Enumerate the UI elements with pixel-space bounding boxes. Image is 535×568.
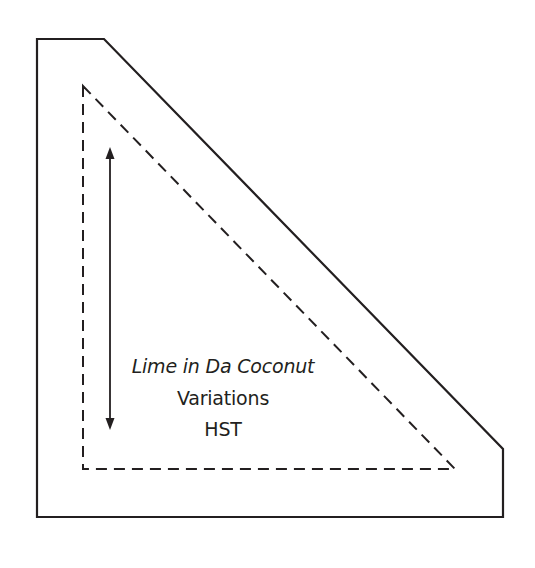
diagram-canvas: Lime in Da Coconut Variations HST [0,0,535,568]
pattern-name-label: Lime in Da Coconut [123,355,323,377]
template-drawing [0,0,535,568]
inner-sew-line [83,86,455,469]
subtitle-label: Variations [123,387,323,409]
outer-cut-line [37,39,503,517]
piece-label: HST [123,418,323,440]
grain-arrow-icon [106,147,115,430]
